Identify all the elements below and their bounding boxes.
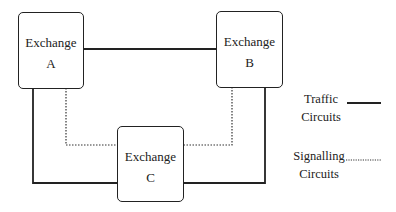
exchange-b-label: Exchange xyxy=(217,32,282,51)
legend-traffic-label: Traffic Circuits xyxy=(296,90,346,126)
signalling-circuit-b-c xyxy=(183,87,232,145)
traffic-circuit-b-c xyxy=(183,87,265,183)
signalling-circuit-a-c xyxy=(66,88,117,145)
traffic-circuit-a-c xyxy=(33,88,117,183)
exchange-a-node: Exchange A xyxy=(18,12,84,89)
exchange-b-id: B xyxy=(217,53,282,72)
exchange-c-id: C xyxy=(118,168,183,187)
exchange-b-node: Exchange B xyxy=(216,11,283,88)
exchange-a-id: A xyxy=(19,54,83,73)
legend-signalling-label: Signalling Circuits xyxy=(292,147,346,183)
exchange-c-label: Exchange xyxy=(118,147,183,166)
exchange-a-label: Exchange xyxy=(19,33,83,52)
exchange-c-node: Exchange C xyxy=(117,126,184,202)
